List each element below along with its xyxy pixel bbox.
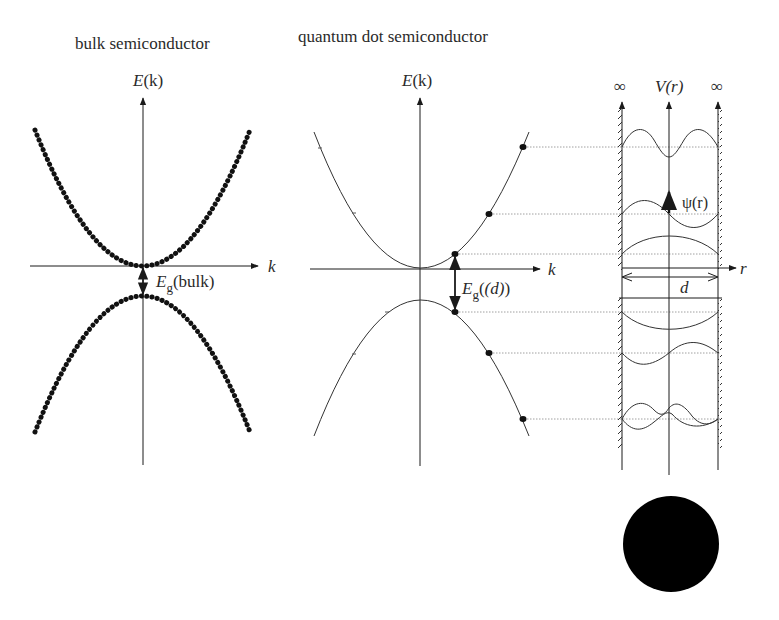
quantum-confinement-diagram: bulk semiconductor E(k) k Eg(bulk) quant… [0, 0, 779, 620]
wavefunction-label: ψ(r) [682, 194, 708, 212]
qd-conduction-state-2 [486, 211, 493, 217]
qd-conduction-state-1 [452, 251, 459, 257]
wavefunction-n3-conduction [622, 130, 718, 157]
bulk-k-label: k [268, 257, 276, 276]
bulk-e-axis-label: E(k) [132, 71, 163, 90]
wavefunction-n1-valence [622, 312, 718, 329]
qd-conduction-band [314, 132, 529, 268]
qd-valence-band [314, 300, 529, 436]
r-label: r [740, 259, 747, 278]
wavefunction-n1-conduction [622, 236, 718, 254]
wavefunction-n3-valence-b [622, 413, 718, 429]
left-infinity-label: ∞ [614, 77, 626, 96]
potential-axis-label: V(r) [655, 77, 684, 96]
qd-e-axis-label: E(k) [401, 71, 432, 90]
width-label: d [680, 278, 689, 297]
right-infinity-label: ∞ [711, 77, 723, 96]
qd-valence-state-1 [452, 309, 459, 315]
qd-title: quantum dot semiconductor [298, 27, 488, 46]
quantum-dot-sphere [623, 496, 719, 592]
qd-valence-state-2 [486, 350, 493, 356]
bulk-gap-label: Eg(bulk) [155, 272, 214, 295]
bulk-panel: bulk semiconductor E(k) k Eg(bulk) [30, 34, 276, 465]
bulk-title: bulk semiconductor [75, 34, 210, 53]
potential-well-panel: ∞ V(r) ∞ r d ψ(r) [614, 77, 747, 475]
qd-gap-label: Eg((d)) [461, 279, 510, 302]
wavefunction-n3-valence-a [622, 403, 718, 424]
qd-valence-state-3 [520, 416, 527, 422]
qd-conduction-state-3 [520, 144, 527, 150]
qd-k-label: k [548, 260, 556, 279]
